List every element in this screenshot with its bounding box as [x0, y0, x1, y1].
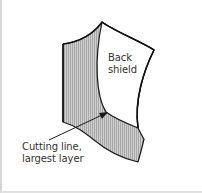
figure-frame: Back shield Cutting line, largest layer — [0, 0, 202, 193]
cutting-line-label: Cutting line, largest layer — [22, 141, 83, 165]
cutting-line-label-line1: Cutting line, — [22, 141, 83, 153]
back-shield-label-line2: shield — [108, 64, 137, 76]
back-shield-label: Back shield — [108, 52, 137, 76]
cutting-line-label-line2: largest layer — [22, 153, 83, 165]
back-shield-label-line1: Back — [108, 52, 137, 64]
